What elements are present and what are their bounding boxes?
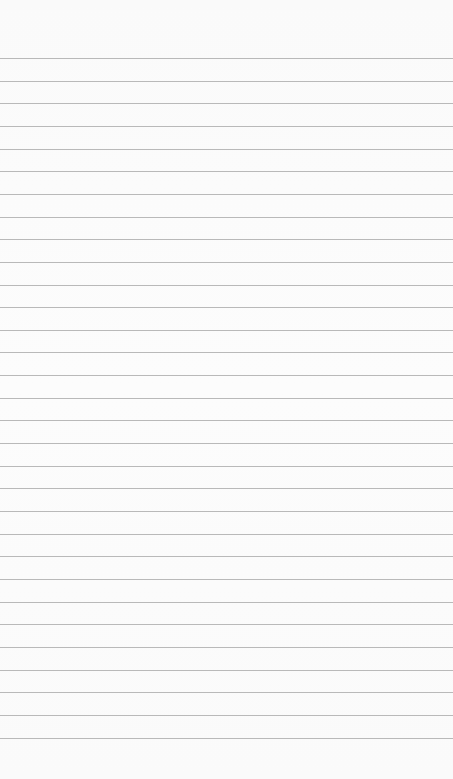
ruled-line xyxy=(0,398,453,399)
ruled-line xyxy=(0,330,453,331)
ruled-line xyxy=(0,624,453,625)
ruled-line xyxy=(0,420,453,421)
ruled-line xyxy=(0,81,453,82)
ruled-line xyxy=(0,670,453,671)
ruled-line xyxy=(0,126,453,127)
ruled-line xyxy=(0,647,453,648)
ruled-line xyxy=(0,602,453,603)
ruled-line xyxy=(0,58,453,59)
ruled-line xyxy=(0,738,453,739)
ruled-line xyxy=(0,556,453,557)
ruled-line xyxy=(0,285,453,286)
ruled-line xyxy=(0,149,453,150)
ruled-line xyxy=(0,307,453,308)
ruled-line xyxy=(0,443,453,444)
ruled-line xyxy=(0,579,453,580)
ruled-line xyxy=(0,262,453,263)
ruled-line xyxy=(0,217,453,218)
ruled-line xyxy=(0,511,453,512)
ruled-line xyxy=(0,466,453,467)
ruled-line xyxy=(0,103,453,104)
ruled-line xyxy=(0,375,453,376)
ruled-line xyxy=(0,171,453,172)
ruled-line xyxy=(0,194,453,195)
ruled-line xyxy=(0,715,453,716)
ruled-line xyxy=(0,534,453,535)
ruled-line xyxy=(0,488,453,489)
ruled-line xyxy=(0,692,453,693)
ruled-line xyxy=(0,352,453,353)
ruled-line xyxy=(0,239,453,240)
lined-paper-page xyxy=(0,0,453,779)
